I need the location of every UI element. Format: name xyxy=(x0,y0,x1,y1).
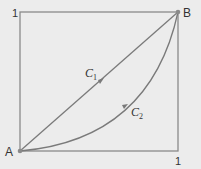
point-a-label: A xyxy=(5,146,13,158)
y-axis-label: 1 xyxy=(12,8,18,19)
curve-c2-label: C2 xyxy=(131,106,143,121)
curve-c1-label: C1 xyxy=(85,67,97,82)
point-a xyxy=(18,149,23,154)
point-b xyxy=(176,10,181,15)
point-b-label: B xyxy=(183,7,191,19)
x-axis-label: 1 xyxy=(175,156,181,167)
diagram-canvas xyxy=(0,0,201,169)
